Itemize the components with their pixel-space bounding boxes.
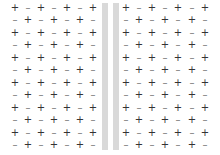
plus-charge-icon: + xyxy=(88,103,98,113)
minus-charge-icon: – xyxy=(75,3,85,13)
plus-charge-icon: + xyxy=(187,140,197,150)
plus-charge-icon: + xyxy=(62,3,72,13)
plus-charge-icon: + xyxy=(134,115,144,125)
plus-charge-icon: + xyxy=(173,128,183,138)
plus-charge-icon: + xyxy=(160,65,170,75)
minus-charge-icon: – xyxy=(147,65,157,75)
minus-charge-icon: – xyxy=(36,90,46,100)
plus-charge-icon: + xyxy=(23,90,33,100)
left-barrier-bar xyxy=(102,3,108,150)
plus-charge-icon: + xyxy=(187,40,197,50)
plus-charge-icon: + xyxy=(75,90,85,100)
plus-charge-icon: + xyxy=(187,90,197,100)
minus-charge-icon: – xyxy=(147,90,157,100)
minus-charge-icon: – xyxy=(173,140,183,150)
minus-charge-icon: – xyxy=(121,65,131,75)
plus-charge-icon: + xyxy=(121,103,131,113)
minus-charge-icon: – xyxy=(173,115,183,125)
plus-charge-icon: + xyxy=(147,53,157,63)
minus-charge-icon: – xyxy=(134,3,144,13)
plus-charge-icon: + xyxy=(134,90,144,100)
minus-charge-icon: – xyxy=(75,53,85,63)
minus-charge-icon: – xyxy=(147,115,157,125)
minus-charge-icon: – xyxy=(62,15,72,25)
plus-charge-icon: + xyxy=(36,78,46,88)
minus-charge-icon: – xyxy=(62,65,72,75)
plus-charge-icon: + xyxy=(147,28,157,38)
minus-charge-icon: – xyxy=(187,3,197,13)
plus-charge-icon: + xyxy=(23,115,33,125)
minus-charge-icon: – xyxy=(10,65,20,75)
minus-charge-icon: – xyxy=(75,78,85,88)
plus-charge-icon: + xyxy=(147,128,157,138)
plus-charge-icon: + xyxy=(160,115,170,125)
minus-charge-icon: – xyxy=(75,28,85,38)
minus-charge-icon: – xyxy=(75,103,85,113)
minus-charge-icon: – xyxy=(200,115,210,125)
plus-charge-icon: + xyxy=(134,140,144,150)
plus-charge-icon: + xyxy=(200,78,210,88)
plus-charge-icon: + xyxy=(173,53,183,63)
plus-charge-icon: + xyxy=(49,40,59,50)
minus-charge-icon: – xyxy=(200,90,210,100)
minus-charge-icon: – xyxy=(147,40,157,50)
plus-charge-icon: + xyxy=(75,15,85,25)
plus-charge-icon: + xyxy=(36,28,46,38)
plus-charge-icon: + xyxy=(200,128,210,138)
plus-charge-icon: + xyxy=(10,103,20,113)
plus-charge-icon: + xyxy=(23,140,33,150)
minus-charge-icon: – xyxy=(147,140,157,150)
plus-charge-icon: + xyxy=(160,40,170,50)
minus-charge-icon: – xyxy=(160,103,170,113)
plus-charge-icon: + xyxy=(23,15,33,25)
minus-charge-icon: – xyxy=(49,28,59,38)
minus-charge-icon: – xyxy=(88,40,98,50)
plus-charge-icon: + xyxy=(187,115,197,125)
minus-charge-icon: – xyxy=(23,78,33,88)
plus-charge-icon: + xyxy=(187,15,197,25)
minus-charge-icon: – xyxy=(36,15,46,25)
right-barrier-bar xyxy=(113,3,119,150)
plus-charge-icon: + xyxy=(49,140,59,150)
plus-charge-icon: + xyxy=(200,103,210,113)
plus-charge-icon: + xyxy=(88,78,98,88)
minus-charge-icon: – xyxy=(160,53,170,63)
plus-charge-icon: + xyxy=(88,28,98,38)
minus-charge-icon: – xyxy=(121,40,131,50)
minus-charge-icon: – xyxy=(62,115,72,125)
plus-charge-icon: + xyxy=(121,78,131,88)
plus-charge-icon: + xyxy=(49,115,59,125)
minus-charge-icon: – xyxy=(121,140,131,150)
plus-charge-icon: + xyxy=(173,3,183,13)
minus-charge-icon: – xyxy=(88,15,98,25)
plus-charge-icon: + xyxy=(200,53,210,63)
minus-charge-icon: – xyxy=(160,28,170,38)
plus-charge-icon: + xyxy=(49,65,59,75)
plus-charge-icon: + xyxy=(36,103,46,113)
minus-charge-icon: – xyxy=(134,78,144,88)
plus-charge-icon: + xyxy=(147,103,157,113)
minus-charge-icon: – xyxy=(23,103,33,113)
plus-charge-icon: + xyxy=(173,78,183,88)
minus-charge-icon: – xyxy=(187,128,197,138)
minus-charge-icon: – xyxy=(10,140,20,150)
minus-charge-icon: – xyxy=(49,128,59,138)
minus-charge-icon: – xyxy=(134,53,144,63)
minus-charge-icon: – xyxy=(36,65,46,75)
plus-charge-icon: + xyxy=(23,65,33,75)
minus-charge-icon: – xyxy=(160,128,170,138)
minus-charge-icon: – xyxy=(121,115,131,125)
plus-charge-icon: + xyxy=(62,103,72,113)
minus-charge-icon: – xyxy=(147,15,157,25)
minus-charge-icon: – xyxy=(200,140,210,150)
plus-charge-icon: + xyxy=(121,28,131,38)
minus-charge-icon: – xyxy=(121,90,131,100)
plus-charge-icon: + xyxy=(88,3,98,13)
plus-charge-icon: + xyxy=(36,53,46,63)
plus-charge-icon: + xyxy=(10,78,20,88)
minus-charge-icon: – xyxy=(173,90,183,100)
plus-charge-icon: + xyxy=(36,128,46,138)
minus-charge-icon: – xyxy=(75,128,85,138)
minus-charge-icon: – xyxy=(187,78,197,88)
minus-charge-icon: – xyxy=(134,28,144,38)
